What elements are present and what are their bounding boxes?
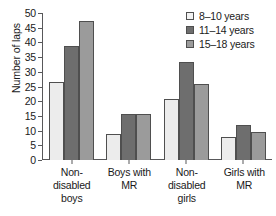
- y-tick-label: 25: [25, 81, 36, 93]
- y-tick-mark: [38, 72, 42, 73]
- y-tick-label: 5: [30, 139, 36, 151]
- legend-label: 8–10 years: [199, 10, 249, 22]
- legend-swatch-icon: [186, 26, 194, 34]
- x-axis-label-line: disabled: [43, 179, 101, 192]
- legend-swatch-icon: [186, 12, 194, 20]
- x-axis-label-line: Girls with: [216, 166, 274, 179]
- y-tick-mark: [38, 145, 42, 146]
- x-axis-label-line: Non-: [43, 166, 101, 179]
- bar: [194, 84, 209, 160]
- bar: [121, 114, 136, 160]
- legend-swatch-icon: [186, 40, 194, 48]
- y-tick-label: 35: [25, 51, 36, 63]
- x-axis-label: Non-disabledboys: [43, 166, 101, 205]
- bar: [136, 114, 151, 160]
- y-tick-label: 45: [25, 22, 36, 34]
- y-tick-mark: [38, 101, 42, 102]
- y-tick-label: 20: [25, 95, 36, 107]
- x-tick-mark: [128, 160, 129, 164]
- y-tick-mark: [38, 131, 42, 132]
- bar: [106, 134, 121, 160]
- bar: [236, 125, 251, 160]
- legend-item: 8–10 years: [186, 9, 255, 23]
- y-tick-mark: [38, 87, 42, 88]
- chart-legend: 8–10 years11–14 years15–18 years: [186, 9, 255, 51]
- x-axis-label: Girls withMR: [216, 166, 274, 205]
- bar: [64, 46, 79, 160]
- x-axis-label-line: girls: [158, 192, 216, 205]
- y-tick-mark: [38, 160, 42, 161]
- bar-chart: Number of laps 05101520253035404550 Non-…: [0, 0, 276, 216]
- bar-group: [100, 13, 157, 160]
- x-axis-label: Boys withMR: [101, 166, 159, 205]
- x-axis-label-line: Non-: [158, 166, 216, 179]
- y-tick-mark: [38, 116, 42, 117]
- y-axis-title: Number of laps: [10, 3, 22, 113]
- y-tick-label: 0: [30, 154, 36, 166]
- bar: [221, 137, 236, 160]
- y-tick-mark: [38, 28, 42, 29]
- x-axis-label-line: MR: [216, 179, 274, 192]
- y-tick-label: 15: [25, 110, 36, 122]
- bar: [179, 62, 194, 160]
- y-tick-label: 40: [25, 36, 36, 48]
- bar: [164, 99, 179, 160]
- x-axis-label-line: boys: [43, 192, 101, 205]
- bar: [49, 82, 64, 160]
- legend-label: 15–18 years: [199, 38, 255, 50]
- x-axis-labels: Non-disabledboysBoys withMRNon-disabledg…: [43, 166, 273, 205]
- legend-label: 11–14 years: [199, 24, 254, 36]
- bar-group: [43, 13, 100, 160]
- x-tick-mark: [186, 160, 187, 164]
- bar: [251, 132, 266, 160]
- y-tick-mark: [38, 13, 42, 14]
- x-axis-label-line: disabled: [158, 179, 216, 192]
- x-tick-mark: [243, 160, 244, 164]
- y-tick-label: 30: [25, 66, 36, 78]
- x-tick-mark: [71, 160, 72, 164]
- y-tick-mark: [38, 57, 42, 58]
- y-tick-label: 10: [25, 125, 36, 137]
- x-axis-label-line: Boys with: [101, 166, 159, 179]
- legend-item: 15–18 years: [186, 37, 255, 51]
- legend-item: 11–14 years: [186, 23, 255, 37]
- x-axis-label-line: MR: [101, 179, 159, 192]
- x-axis-label: Non-disabledgirls: [158, 166, 216, 205]
- bar: [79, 21, 94, 160]
- y-tick-label: 50: [25, 7, 36, 19]
- y-tick-mark: [38, 42, 42, 43]
